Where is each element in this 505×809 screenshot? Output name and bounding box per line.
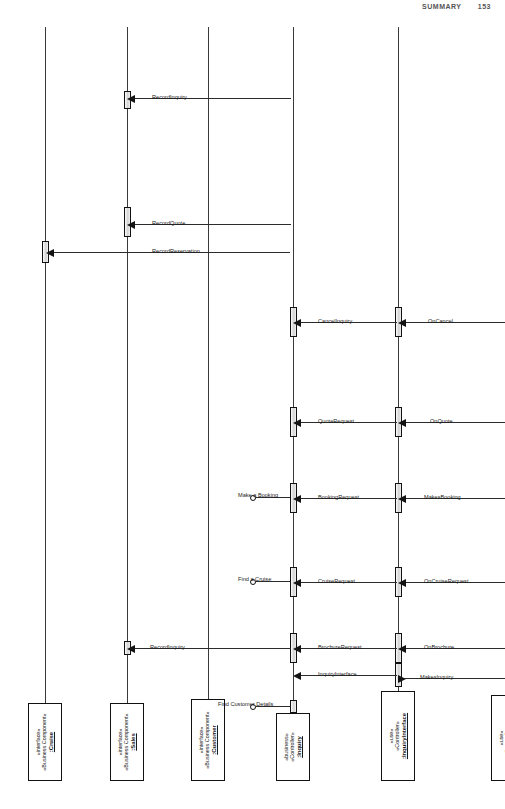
message-label: BrochureRequest [318, 644, 362, 650]
lifeline-head-customer[interactable]: «interface» «Business Component» :Custom… [191, 699, 225, 781]
message-shaft [404, 422, 505, 423]
lifeline-stereotype: «use» [498, 731, 505, 746]
lifeline-head-inquiryform[interactable]: «use» «Server Page» :InquiryForm [491, 695, 505, 781]
message-label: OnBrochure [424, 644, 454, 650]
lifeline-name: :Cruise [48, 732, 55, 752]
lifeline-name: :Inquiry [296, 736, 303, 758]
message-arrowhead [293, 319, 301, 327]
message-label: RecordQuote [152, 220, 185, 226]
lifeline-stereotype: «Business Component» [204, 711, 211, 768]
message-arrowhead [293, 419, 301, 427]
message-label: BookingRequest [318, 494, 359, 500]
lifeline-stereotype: «Business Component» [123, 713, 130, 770]
message-label: RecordInquiry [152, 94, 187, 100]
message-arrowhead [293, 579, 301, 587]
lifeline-name: :Sales [130, 733, 137, 750]
message-label: InquiryInterface [318, 671, 357, 677]
message-label: OnCancel [428, 318, 453, 324]
message-arrowhead [293, 495, 301, 503]
message-label: MakesBooking [424, 494, 461, 500]
lifeline-stereotype: «Controller» [394, 721, 401, 750]
page-root: SUMMARY 153 «interface» «Business Compon… [0, 0, 505, 809]
message-label: CruiseRequest [318, 578, 355, 584]
lifeline-head-cruise[interactable]: «interface» «Business Component» :Cruise [28, 703, 62, 781]
message-shaft [404, 322, 505, 323]
lifeline-head-sales[interactable]: «interface» «Business Component» :Sales [110, 703, 144, 781]
message-arrowhead [127, 95, 135, 103]
message-shaft [404, 648, 505, 649]
lifeline-name: :InquiryInterface [401, 713, 408, 759]
lifeline-sales [127, 27, 128, 703]
message-label: MakesInquiry [420, 674, 453, 680]
message-arrowhead [398, 645, 406, 653]
activation-bar [290, 700, 297, 713]
lifeline-inquiry [293, 27, 294, 713]
lifeline-head-inquiry[interactable]: «business» «Controller» :Inquiry [276, 713, 310, 781]
message-arrowhead [127, 645, 135, 653]
message-arrowhead [293, 645, 301, 653]
message-arrowhead [398, 319, 406, 327]
message-arrowhead [398, 419, 406, 427]
lifeline-stereotype: «use» [388, 729, 395, 744]
message-label: OnQuote [430, 418, 453, 424]
lifeline-stereotype: «Business Component» [41, 713, 48, 770]
lifeline-name: :Customer [211, 725, 218, 754]
message-label: RecordInquiry [150, 644, 185, 650]
found-message-label: Find Customer Details [218, 701, 273, 707]
sequence-diagram-canvas: «interface» «Business Component» :Cruise… [0, 0, 505, 809]
lifeline-head-inquiryinterface[interactable]: «use» «Controller» :InquiryInterface [381, 691, 415, 781]
lifeline-stereotype: «interface» [117, 729, 124, 756]
message-arrowhead [398, 579, 406, 587]
lifeline-stereotype: «interface» [35, 729, 42, 756]
message-arrowhead [293, 672, 301, 680]
lifeline-customer [208, 27, 209, 699]
message-arrowhead [127, 221, 135, 229]
lifeline-cruise [45, 27, 46, 703]
message-label: QuoteRequest [318, 418, 354, 424]
message-arrowhead [398, 495, 406, 503]
found-message-label: Find a Cruise [238, 576, 271, 582]
message-arrowhead [46, 249, 54, 257]
message-label: RecordReservation [152, 248, 200, 254]
found-message-label: Make a Booking [238, 492, 278, 498]
message-arrowhead [398, 675, 406, 683]
lifeline-stereotype: «Controller» [289, 732, 296, 761]
lifeline-stereotype: «business» [283, 733, 290, 760]
message-label: CancelInquiry [318, 318, 352, 324]
message-label: OnCruiseRequest [424, 578, 468, 584]
lifeline-stereotype: «interface» [198, 727, 205, 754]
